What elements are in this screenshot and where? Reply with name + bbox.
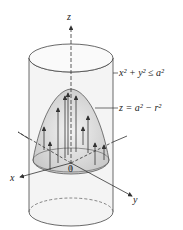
origin-label: 0 (68, 164, 73, 174)
paraboloid-equation-label: z = a² − r² (119, 103, 161, 113)
y-axis-label: y (133, 195, 137, 205)
z-axis-label: z (67, 12, 71, 22)
diagram-canvas: z x y 0 x² + y² ≤ a² z = a² − r² (0, 0, 183, 230)
cylinder-paraboloid-figure (0, 0, 183, 230)
y-axis-back-outside (113, 136, 127, 142)
x-axis-label: x (10, 173, 14, 183)
x-axis-back-outside (18, 132, 29, 139)
cylinder-region-label: x² + y² ≤ a² (119, 68, 164, 78)
